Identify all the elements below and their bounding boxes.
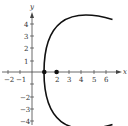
y-tick-label: −4	[20, 118, 31, 126]
x-tick-label: −2	[4, 76, 14, 84]
x-tick-label: 2	[55, 76, 59, 84]
focus-point	[54, 70, 59, 75]
x-tick-label: 4	[79, 76, 84, 84]
y-tick-label: 2	[24, 45, 28, 53]
y-tick-label: 4	[24, 21, 29, 29]
parabola-graph: −2 −1 2 3 4 5 6 4 3 2 1 −2 −3 −4 x y	[0, 0, 128, 126]
y-axis-arrow-icon	[30, 12, 34, 18]
x-axis-label: x	[123, 68, 127, 76]
x-tick-label: 3	[67, 76, 71, 84]
x-tick-label: −1	[16, 76, 26, 84]
x-tick-label: 6	[104, 76, 109, 84]
y-tick-label: 3	[24, 33, 28, 41]
y-tick-label: −3	[20, 106, 30, 114]
vertex-point	[42, 70, 47, 75]
x-tick-label: 5	[92, 76, 96, 84]
parabola-curve	[44, 15, 113, 126]
y-tick-label: −2	[20, 94, 30, 102]
y-axis-label: y	[29, 3, 35, 11]
x-axis-arrow-icon	[116, 70, 122, 74]
y-tick-label: 1	[24, 58, 28, 66]
